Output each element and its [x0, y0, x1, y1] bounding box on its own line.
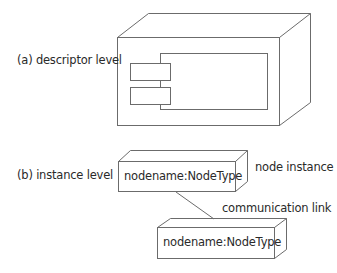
component-icon	[131, 54, 268, 110]
communication-link-annotation: communication link	[222, 201, 331, 215]
node-instance-1-text: nodename:NodeType	[124, 169, 242, 183]
descriptor-level-label: (a) descriptor level	[17, 53, 122, 67]
instance-level-label: (b) instance level	[17, 168, 113, 182]
diagram-canvas	[0, 0, 337, 273]
node-instance-annotation: node instance	[255, 160, 333, 174]
node-instance-2-text: nodename:NodeType	[163, 235, 281, 249]
communication-link	[176, 192, 214, 219]
